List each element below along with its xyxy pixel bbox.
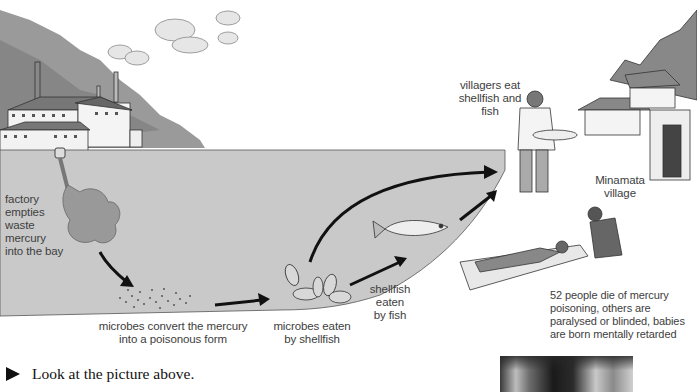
triangle-bullet-icon <box>6 367 20 381</box>
label-line: poisoning, others are <box>550 302 697 315</box>
label-line: waste <box>5 219 63 232</box>
label-line: factory <box>5 193 63 206</box>
label-line: village <box>585 187 655 200</box>
partial-photo <box>500 356 633 392</box>
label-villagers-eat: villagers eat shellfish and fish <box>445 79 535 118</box>
label-line: shellfish and <box>445 92 535 105</box>
label-line: into a poisonous form <box>78 333 268 346</box>
label-line: 52 people die of mercury <box>550 289 697 302</box>
village-houses <box>578 10 697 180</box>
smoke-clouds <box>108 11 240 65</box>
label-line: microbes convert the mercury <box>78 320 268 333</box>
label-minamata-village: Minamata village <box>585 174 655 200</box>
label-line: paralysed or blinded, babies <box>550 315 697 328</box>
label-shellfish-eaten: shellfish eaten by fish <box>365 283 415 322</box>
label-line: by shellfish <box>262 333 362 346</box>
label-line: empties <box>5 206 63 219</box>
label-line: are born mentally retarded <box>550 328 697 341</box>
label-line: mercury <box>5 232 63 245</box>
label-factory: factory empties waste mercury into the b… <box>5 193 63 258</box>
instruction-text: Look at the picture above. <box>32 365 194 383</box>
label-line: into the bay <box>5 245 63 258</box>
label-line: villagers eat <box>445 79 535 92</box>
label-microbes-convert: microbes convert the mercury into a pois… <box>78 320 268 346</box>
label-line: microbes eaten <box>262 320 362 333</box>
label-microbes-eaten: microbes eaten by shellfish <box>262 320 362 346</box>
instruction-line: Look at the picture above. <box>6 365 194 383</box>
label-consequences: 52 people die of mercury poisoning, othe… <box>550 289 697 341</box>
label-line: Minamata <box>585 174 655 187</box>
label-line: by fish <box>365 309 415 322</box>
label-line: eaten <box>365 296 415 309</box>
label-line: fish <box>445 105 535 118</box>
sick-villagers <box>460 207 622 290</box>
label-line: shellfish <box>365 283 415 296</box>
